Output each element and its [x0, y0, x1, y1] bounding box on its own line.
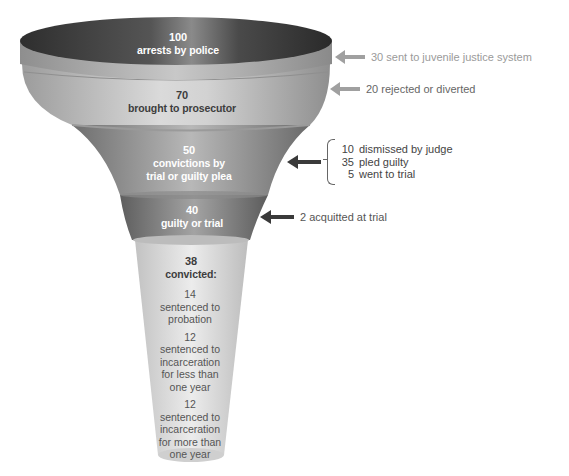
stage-text: convicted: — [165, 268, 217, 280]
stage-text: brought to prosecutor — [128, 102, 236, 114]
breakdown-item: 35pled guilty — [339, 156, 453, 169]
stage-text: arrests by police — [137, 44, 219, 56]
stage-text: convictions by — [146, 157, 232, 170]
arrow-left-icon — [260, 210, 294, 224]
stage-value: 40 — [161, 204, 223, 217]
outcome-probation: 14 sentenced to probation — [135, 288, 245, 326]
annotation-rejected: 20 rejected or diverted — [330, 82, 475, 96]
stage-text: guilty or trial — [161, 217, 223, 229]
arrow-left-icon — [335, 50, 365, 64]
stage-label-guilty: 40 guilty or trial — [161, 204, 223, 230]
stage-label-convictions: 50 convictions by trial or guilty plea — [146, 144, 232, 183]
annotation-juvenile: 30 sent to juvenile justice system — [335, 50, 532, 64]
outcome-incarceration-long: 12 sentenced to incarceration for more t… — [135, 398, 245, 461]
arrow-left-icon — [330, 82, 360, 96]
breakdown-item: 10dismissed by judge — [339, 143, 453, 156]
stage-value: 100 — [137, 31, 219, 44]
stage-label-convicted: 38 convicted: — [165, 255, 217, 281]
brace-icon — [327, 139, 335, 185]
stage-label-arrests: 100 arrests by police — [137, 31, 219, 57]
breakdown-list: 10dismissed by judge 35pled guilty 5went… — [339, 143, 453, 181]
stage-label-prosecutor: 70 brought to prosecutor — [128, 89, 236, 115]
arrow-left-icon — [287, 155, 321, 169]
outcome-incarceration-short: 12 sentenced to incarceration for less t… — [135, 331, 245, 394]
stage-value: 70 — [128, 89, 236, 102]
stage-text: trial or guilty plea — [146, 170, 232, 183]
annotation-acquitted: 2 acquitted at trial — [260, 210, 387, 224]
stage-value: 50 — [146, 144, 232, 157]
funnel-graphic — [0, 0, 569, 476]
annotation-breakdown: 10dismissed by judge 35pled guilty 5went… — [287, 139, 453, 185]
sentencing-outcomes: 14 sentenced to probation 12 sentenced t… — [135, 283, 245, 461]
breakdown-item: 5went to trial — [339, 168, 453, 181]
stage-value: 38 — [165, 255, 217, 268]
